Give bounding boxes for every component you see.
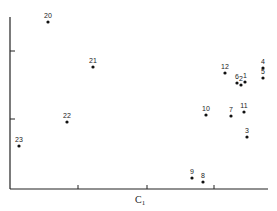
scatter-plot: C1 12345678910111220212223 <box>0 0 277 211</box>
point-label: 20 <box>44 12 52 19</box>
data-point <box>223 71 226 74</box>
point-label: 5 <box>261 68 265 75</box>
point-label: 12 <box>221 63 229 70</box>
point-label: 9 <box>190 168 194 175</box>
point-label: 7 <box>229 106 233 113</box>
point-label: 2 <box>239 75 243 82</box>
data-point <box>46 20 49 23</box>
data-point <box>243 80 246 83</box>
data-point <box>261 76 264 79</box>
point-label: 1 <box>243 72 247 79</box>
point-label: 11 <box>240 102 247 109</box>
data-point <box>204 113 207 116</box>
data-point <box>91 65 94 68</box>
data-point <box>242 110 245 113</box>
data-point <box>65 120 68 123</box>
point-label: 4 <box>261 58 265 65</box>
data-point <box>245 135 248 138</box>
point-label: 23 <box>15 136 23 143</box>
data-point <box>201 180 204 183</box>
x-axis-label: C1 <box>135 194 146 207</box>
point-label: 3 <box>245 127 249 134</box>
point-label: 21 <box>89 57 97 64</box>
data-point <box>229 114 232 117</box>
data-point <box>235 81 238 84</box>
point-label: 8 <box>201 172 205 179</box>
point-label: 6 <box>235 73 239 80</box>
data-point <box>190 176 193 179</box>
data-point <box>239 83 242 86</box>
point-label: 22 <box>63 112 71 119</box>
data-points: 12345678910111220212223 <box>15 12 265 184</box>
point-label: 10 <box>202 105 210 112</box>
data-point <box>17 144 20 147</box>
